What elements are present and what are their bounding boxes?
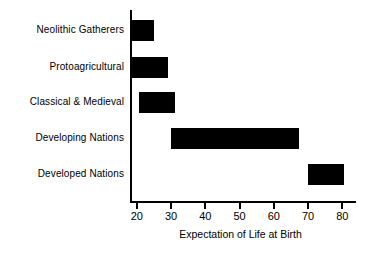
category-label-neolithic-gatherers: Neolithic Gatherers [37,24,125,35]
x-tick-30 [170,203,172,209]
x-axis-title: Expectation of Life at Birth [124,228,357,240]
category-label-developing-nations: Developing Nations [35,132,124,143]
category-label-developed-nations: Developed Nations [38,168,124,179]
life-expectancy-bar-chart: Neolithic Gatherers Protoagricultural Cl… [0,0,377,253]
x-tick-40 [204,203,206,209]
x-tick-label-60: 60 [268,210,280,222]
bar-neolithic-gatherers [130,20,154,41]
category-label-classical-medieval: Classical & Medieval [30,96,124,107]
bar-classical-medieval [139,92,175,113]
x-tick-label-50: 50 [233,210,245,222]
x-tick-80 [341,203,343,209]
plot-area: 20304050607080 [124,10,357,205]
x-tick-70 [307,203,309,209]
x-tick-60 [273,203,275,209]
x-tick-label-80: 80 [336,210,348,222]
x-tick-20 [136,203,138,209]
bar-developing-nations [171,128,299,149]
bar-protoagricultural [130,57,168,78]
x-tick-label-30: 30 [165,210,177,222]
category-label-protoagricultural: Protoagricultural [49,61,124,72]
x-tick-label-70: 70 [302,210,314,222]
x-tick-label-20: 20 [131,210,143,222]
bar-developed-nations [308,164,344,185]
x-axis-line [130,201,356,203]
x-tick-label-40: 40 [199,210,211,222]
x-tick-50 [239,203,241,209]
